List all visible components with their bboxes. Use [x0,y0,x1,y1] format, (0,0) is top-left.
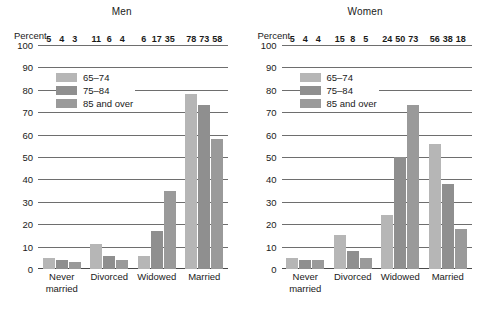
bar-85-over[interactable] [211,139,223,269]
y-tick-20: 20 [251,219,277,230]
bar-wrap: 17 [151,45,163,269]
bar-wrap: 18 [455,45,467,269]
panel-women: Women Percent 100 90 80 70 60 50 40 30 2… [244,0,487,314]
bar-75-84[interactable] [442,184,454,269]
legend-item-75-84[interactable]: 75–84 [300,85,379,96]
x-axis-labels-women: Never married Divorced Widowed Married [282,271,472,294]
bar-85-over[interactable] [312,260,324,269]
bar-value: 38 [443,35,453,44]
bar-value: 6 [107,35,112,44]
y-tick-90: 90 [251,62,277,73]
y-tick-0: 0 [7,264,33,275]
y-tick-40: 40 [7,174,33,185]
x-axis-labels-men: Never married Divorced Widowed Married [38,271,228,294]
bar-65-74[interactable] [185,94,197,269]
x-label-divorced: Divorced [331,271,375,294]
x-label-never-married: Never married [40,271,84,294]
bar-85-over[interactable] [455,229,467,269]
legend-item-85-over[interactable]: 85 and over [300,98,379,109]
y-tick-100: 100 [7,40,33,51]
bar-85-over[interactable] [116,260,128,269]
legend-item-65-74[interactable]: 65–74 [56,72,135,83]
x-label-widowed: Widowed [135,271,179,294]
bar-value: 8 [350,35,355,44]
bar-wrap: 38 [442,45,454,269]
bar-value: 58 [212,35,222,44]
bar-wrap: 35 [164,45,176,269]
bar-75-84[interactable] [198,105,210,269]
bar-85-over[interactable] [407,105,419,269]
bar-65-74[interactable] [381,215,393,269]
legend-men: 65–74 75–84 85 and over [56,72,135,109]
bar-75-84[interactable] [103,256,115,269]
bar-value: 17 [152,35,162,44]
y-tick-100: 100 [251,40,277,51]
bar-wrap: 5 [43,45,55,269]
bar-group-widowed: 6 17 35 [135,45,179,269]
bar-wrap: 73 [407,45,419,269]
bar-75-84[interactable] [394,157,406,269]
legend-women: 65–74 75–84 85 and over [300,72,379,109]
legend-label: 65–74 [83,72,111,83]
bar-75-84[interactable] [151,231,163,269]
legend-item-75-84[interactable]: 75–84 [56,85,135,96]
panel-men: Men Percent 100 90 80 70 60 50 40 30 20 … [0,0,244,314]
bar-value: 4 [120,35,125,44]
y-tick-60: 60 [251,129,277,140]
bar-65-74[interactable] [138,256,150,269]
bar-wrap: 50 [394,45,406,269]
bar-65-74[interactable] [43,258,55,269]
bar-65-74[interactable] [334,235,346,269]
legend-item-85-over[interactable]: 85 and over [56,98,135,109]
bar-value: 56 [430,35,440,44]
bar-value: 6 [141,35,146,44]
bar-value: 18 [456,35,466,44]
bar-value: 4 [59,35,64,44]
y-tick-70: 70 [251,107,277,118]
y-tick-40: 40 [251,174,277,185]
legend-swatch-icon [300,99,321,108]
bar-85-over[interactable] [360,258,372,269]
legend-swatch-icon [300,73,321,82]
bar-value: 15 [335,35,345,44]
y-tick-30: 30 [7,196,33,207]
bar-group-married: 78 73 58 [182,45,226,269]
bar-85-over[interactable] [69,262,81,269]
x-label-divorced: Divorced [87,271,131,294]
bar-75-84[interactable] [56,260,68,269]
legend-swatch-icon [56,99,77,108]
bar-value: 50 [395,35,405,44]
y-tick-0: 0 [251,264,277,275]
y-tick-60: 60 [7,129,33,140]
bar-65-74[interactable] [286,258,298,269]
y-tick-90: 90 [7,62,33,73]
x-label-never-married: Never married [283,271,327,294]
bar-wrap: 78 [185,45,197,269]
bar-value: 5 [290,35,295,44]
x-label-married: Married [426,271,470,294]
y-tick-10: 10 [251,241,277,252]
y-tick-50: 50 [251,152,277,163]
bar-85-over[interactable] [164,191,176,269]
bar-value: 73 [408,35,418,44]
bar-value: 24 [382,35,392,44]
panel-title: Men [0,6,244,17]
bar-wrap: 6 [138,45,150,269]
y-tick-20: 20 [7,219,33,230]
bar-wrap: 58 [211,45,223,269]
bar-wrap: 5 [286,45,298,269]
bar-value: 73 [199,35,209,44]
legend-label: 75–84 [327,85,355,96]
y-tick-30: 30 [251,196,277,207]
bar-65-74[interactable] [429,144,441,269]
x-label-married: Married [182,271,226,294]
bar-wrap: 56 [429,45,441,269]
legend-item-65-74[interactable]: 65–74 [300,72,379,83]
bar-group-widowed: 24 50 73 [378,45,422,269]
bar-75-84[interactable] [347,251,359,269]
legend-swatch-icon [56,73,77,82]
y-tick-70: 70 [7,107,33,118]
bar-65-74[interactable] [90,244,102,269]
legend-label: 85 and over [83,98,135,109]
bar-75-84[interactable] [299,260,311,269]
